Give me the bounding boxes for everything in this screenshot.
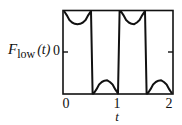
y-axis-label: Flow(t) xyxy=(8,42,50,57)
x-tick-0: 0 xyxy=(63,97,70,111)
chart-figure: Flow(t) 0 0 1 2 t xyxy=(0,0,182,125)
y-axis-label-subscript: low xyxy=(17,47,35,61)
x-axis-label: t xyxy=(115,110,119,123)
plot-area xyxy=(0,0,182,125)
y-tick-zero: 0 xyxy=(53,44,60,58)
signal-line xyxy=(64,11,172,94)
x-tick-2: 2 xyxy=(166,97,173,111)
y-axis-label-argument: (t) xyxy=(37,42,50,57)
y-axis-label-main: F xyxy=(8,41,17,57)
